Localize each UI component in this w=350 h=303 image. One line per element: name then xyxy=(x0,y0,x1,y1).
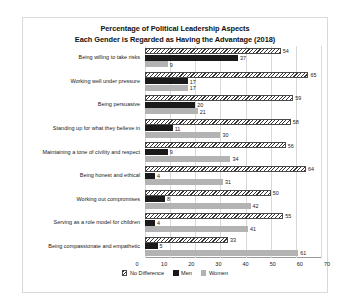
bar-men xyxy=(145,173,155,179)
bar-nodiff xyxy=(145,213,283,219)
bar-value-label: 17 xyxy=(190,79,196,85)
legend-label: No Difference xyxy=(130,270,164,276)
x-axis-line xyxy=(145,257,321,258)
bar-value-label: 56 xyxy=(288,143,294,149)
legend-item-men[interactable]: Men xyxy=(173,270,192,276)
bar-nodiff xyxy=(145,95,293,101)
legend-label: Men xyxy=(181,270,192,276)
bar-value-label: 5 xyxy=(160,243,163,249)
bar-women xyxy=(145,85,188,91)
x-tick-label: 60 xyxy=(297,261,303,267)
bar-women xyxy=(145,108,198,114)
category-label: Being honest and ethical xyxy=(80,172,140,179)
bar-value-label: 21 xyxy=(200,109,206,115)
bar-women xyxy=(145,179,223,185)
bar-value-label: 34 xyxy=(232,156,238,162)
bar-women xyxy=(145,226,248,232)
bar-value-label: 54 xyxy=(283,48,289,54)
category-label: Maintaining a tone of civility and respe… xyxy=(42,149,140,156)
bar-value-label: 41 xyxy=(250,226,256,232)
bar-women xyxy=(145,250,298,256)
legend-swatch-men-icon xyxy=(173,270,179,276)
bar-women xyxy=(145,61,168,67)
bar-nodiff xyxy=(145,119,291,125)
category-label: Working out compromises xyxy=(77,196,140,203)
bar-men xyxy=(145,243,158,249)
bar-nodiff xyxy=(145,48,281,54)
bar-nodiff xyxy=(145,237,228,243)
bar-value-label: 20 xyxy=(197,102,203,108)
legend-swatch-nodiff-icon xyxy=(122,270,128,276)
category-label: Being willing to take risks xyxy=(79,54,140,61)
gridline xyxy=(321,46,322,258)
bar-value-label: 8 xyxy=(167,196,170,202)
bar-value-label: 4 xyxy=(157,173,160,179)
chart-container: Percentage of Political Leadership Aspec… xyxy=(22,17,328,293)
legend-label: Women xyxy=(209,270,228,276)
x-tick-label: 50 xyxy=(270,261,276,267)
bar-value-label: 58 xyxy=(293,119,299,125)
x-tick-label: 70 xyxy=(324,261,330,267)
bar-value-label: 55 xyxy=(285,213,291,219)
bar-nodiff xyxy=(145,72,308,78)
gridline xyxy=(296,46,297,258)
legend-swatch-women-icon xyxy=(201,270,207,276)
bar-value-label: 33 xyxy=(230,237,236,243)
bar-value-label: 9 xyxy=(170,62,173,68)
x-tick-label: 0 xyxy=(135,261,138,267)
bar-value-label: 11 xyxy=(175,126,181,132)
bar-nodiff xyxy=(145,190,271,196)
bar-value-label: 9 xyxy=(170,149,173,155)
category-label: Working well under pressure xyxy=(70,78,140,85)
bar-value-label: 30 xyxy=(222,132,228,138)
bar-men xyxy=(145,149,168,155)
bar-value-label: 31 xyxy=(225,179,231,185)
bar-men xyxy=(145,102,195,108)
bar-women xyxy=(145,156,230,162)
gridline xyxy=(271,46,272,258)
bar-value-label: 17 xyxy=(190,85,196,91)
bar-men xyxy=(145,220,155,226)
bar-value-label: 50 xyxy=(273,190,279,196)
bar-value-label: 61 xyxy=(300,250,306,256)
bar-nodiff xyxy=(145,166,306,172)
bar-nodiff xyxy=(145,142,286,148)
category-axis-labels: Being willing to take risksWorking well … xyxy=(31,46,143,258)
x-tick-label: 10 xyxy=(161,261,167,267)
chart-title: Percentage of Political Leadership Aspec… xyxy=(23,24,327,45)
category-label: Standing up for what they believe in xyxy=(53,125,140,132)
bar-women xyxy=(145,203,251,209)
bar-women xyxy=(145,132,220,138)
bars-region: 5437965171759202158113056934644315084255… xyxy=(145,46,321,258)
bar-value-label: 64 xyxy=(308,166,314,172)
chart-title-line-2: Each Gender is Regarded as Having the Ad… xyxy=(23,35,327,46)
bar-value-label: 59 xyxy=(295,95,301,101)
category-label: Being compassionate and empathetic xyxy=(48,243,140,250)
category-label: Serving as a role model for children xyxy=(53,219,140,226)
bar-men xyxy=(145,55,238,61)
bar-value-label: 42 xyxy=(253,203,259,209)
legend-item-women[interactable]: Women xyxy=(201,270,228,276)
bar-value-label: 37 xyxy=(240,55,246,61)
bar-men xyxy=(145,125,173,131)
bar-men xyxy=(145,196,165,202)
chart-title-line-1: Percentage of Political Leadership Aspec… xyxy=(23,24,327,35)
bar-value-label: 4 xyxy=(157,220,160,226)
chart-legend: No DifferenceMenWomen xyxy=(23,270,327,276)
legend-item-nodiff[interactable]: No Difference xyxy=(122,270,164,276)
x-tick-label: 40 xyxy=(243,261,249,267)
bar-men xyxy=(145,78,188,84)
x-tick-label: 20 xyxy=(188,261,194,267)
category-label: Being persuasive xyxy=(98,101,140,108)
x-tick-label: 30 xyxy=(215,261,221,267)
plot-area: Being willing to take risksWorking well … xyxy=(31,46,321,258)
bar-value-label: 65 xyxy=(310,72,316,78)
